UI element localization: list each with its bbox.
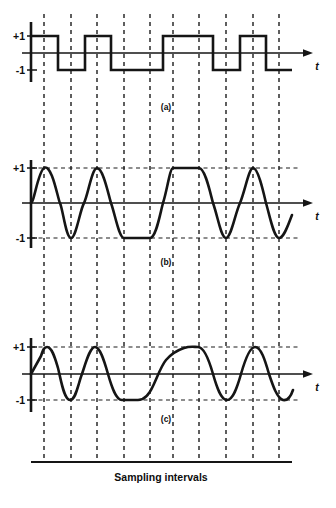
panel-c-distorted-waveform: +1 -1 t (c): [13, 338, 319, 424]
panel-a-label-low: -1: [16, 64, 25, 76]
panel-c-label-t: t: [315, 381, 319, 393]
panel-a-axis-arrow-icon: [303, 49, 313, 57]
panel-b-label-high: +1: [13, 162, 25, 174]
panel-a-label-high: +1: [13, 30, 25, 42]
sampling-intervals-figure: +1 -1 t (a) +1 -1 t (b): [0, 0, 336, 508]
panel-a-square-wave: +1 -1 t (a): [13, 22, 319, 112]
panel-b-caption: (b): [161, 257, 172, 267]
figure-caption: Sampling intervals: [114, 471, 208, 483]
figure-container: +1 -1 t (a) +1 -1 t (b): [0, 0, 336, 508]
panel-b-label-t: t: [315, 210, 319, 222]
panel-c-label-low: -1: [16, 394, 25, 406]
panel-a-caption: (a): [161, 102, 172, 112]
panel-a-label-t: t: [315, 60, 319, 72]
panel-c-label-high: +1: [13, 341, 25, 353]
panel-b-label-low: -1: [16, 232, 25, 244]
panel-b-received-waveform: +1 -1 t (b): [13, 160, 319, 267]
panel-c-axis-arrow-icon: [303, 370, 313, 378]
panel-b-axis-arrow-icon: [303, 199, 313, 207]
panel-c-caption: (c): [161, 414, 172, 424]
